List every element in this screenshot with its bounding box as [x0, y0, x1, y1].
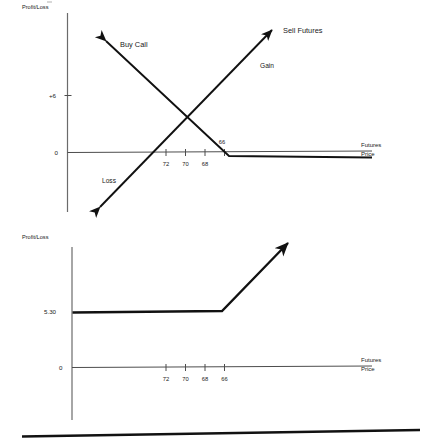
upper-strike-callout-66: 66	[219, 139, 225, 145]
lower-y-axis-title: Profit/Loss	[22, 234, 49, 240]
upper-label-loss: Loss	[102, 177, 117, 184]
upper-x-axis	[68, 151, 373, 153]
lower-x-axis-label-line2: Price	[361, 366, 375, 372]
upper-series-buy-call	[106, 41, 372, 158]
lower-panel: Profit/Loss 5.30 0 72 70 68 66 Futures P…	[22, 234, 381, 420]
upper-label-sell-futures: Sell Futures	[283, 26, 323, 35]
footer-divider-rule	[22, 430, 420, 437]
upper-label-gain: Gain	[260, 62, 274, 69]
upper-x-tick-label-72: 72	[163, 161, 169, 167]
payoff-diagram-svg: Profit/Loss +6 0 72 70 68 66	[0, 0, 431, 446]
lower-y-tick-label-530: 5.30	[44, 308, 57, 315]
lower-x-tick-label-66: 66	[221, 376, 227, 382]
lower-x-tick-label-72: 72	[163, 376, 169, 382]
upper-label-buy-call: Buy Call	[120, 40, 148, 49]
upper-y-axis-title: Profit/Loss	[22, 4, 49, 10]
upper-y-tick-label-0: +6	[49, 92, 57, 99]
lower-x-tick-label-68: 68	[202, 376, 208, 382]
upper-x-tick-label-68: 68	[202, 161, 208, 167]
upper-y-tick-label-1: 0	[55, 149, 59, 156]
lower-x-tick-label-70: 70	[182, 376, 188, 382]
upper-x-axis-label-line2: Price	[361, 151, 375, 157]
lower-y-tick-label-0: 0	[59, 364, 63, 371]
lower-x-axis	[72, 366, 372, 368]
upper-x-axis-label-line1: Futures	[361, 142, 381, 148]
payoff-diagram-figure: Profit/Loss +6 0 72 70 68 66	[0, 0, 431, 446]
upper-series-sell-futures	[100, 30, 272, 207]
upper-panel: Profit/Loss +6 0 72 70 68 66	[22, 4, 381, 213]
upper-x-tick-label-70: 70	[182, 161, 188, 167]
lower-series-combined-position	[73, 243, 289, 313]
lower-x-axis-label-line1: Futures	[361, 357, 381, 363]
